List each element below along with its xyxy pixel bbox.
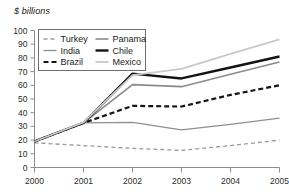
y-axis-tick-label: 40	[18, 108, 28, 118]
legend-label-mexico: Mexico	[113, 57, 142, 67]
x-axis-tick-label: 2002	[123, 176, 142, 186]
series-line-turkey	[35, 140, 280, 150]
legend-label-panama: Panama	[113, 34, 147, 44]
series-line-brazil	[35, 85, 280, 141]
line-chart-plot: 0102030405060708090100200020012002200320…	[0, 0, 289, 195]
y-axis-tick-label: 90	[18, 39, 28, 49]
series-line-india	[35, 118, 280, 141]
x-axis-tick-label: 2004	[221, 176, 240, 186]
x-axis-tick-label: 2003	[172, 176, 191, 186]
legend-label-chile: Chile	[113, 46, 134, 56]
chart-container: $ billions 01020304050607080901002000200…	[0, 0, 289, 195]
y-axis-tick-label: 80	[18, 53, 28, 63]
y-axis-tick-label: 60	[18, 80, 28, 90]
y-axis-tick-label: 30	[18, 121, 28, 131]
y-axis-tick-label: 20	[18, 135, 28, 145]
legend-label-india: India	[61, 46, 81, 56]
y-axis-tick-label: 70	[18, 67, 28, 77]
y-axis-tick-label: 50	[18, 94, 28, 104]
legend-label-turkey: Turkey	[61, 34, 89, 44]
y-axis-tick-label: 0	[23, 163, 28, 173]
y-axis-tick-label: 10	[18, 149, 28, 159]
x-axis-tick-label: 2005	[270, 176, 289, 186]
x-axis-tick-label: 2001	[74, 176, 93, 186]
legend-label-brazil: Brazil	[61, 57, 84, 67]
x-axis-tick-label: 2000	[25, 176, 44, 186]
series-line-panama	[35, 62, 280, 141]
y-axis-tick-label: 100	[13, 26, 27, 36]
chart-legend: TurkeyPanamaIndiaChileBrazilMexico	[39, 30, 147, 71]
